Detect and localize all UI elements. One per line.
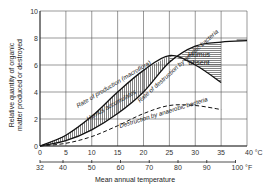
x-tick-label-c: 35 xyxy=(217,149,225,156)
y-tick-label: 8 xyxy=(34,35,38,42)
x-tick-label-c: 40 °C xyxy=(245,149,263,156)
chart: 02468100510152025303540 °C32405060708090… xyxy=(0,0,270,186)
y-tick-label: 2 xyxy=(34,116,38,123)
x-tick-label-f: 100 °F xyxy=(232,164,253,171)
x-tick-label-f: 40 xyxy=(59,164,67,171)
x-tick-label-f: 90 xyxy=(203,164,211,171)
x-tick-label-c: 5 xyxy=(64,149,68,156)
y-axis-title-1: Relative quantity of organic xyxy=(8,42,16,127)
y-tick-label: 10 xyxy=(30,8,38,15)
y-tick-label: 6 xyxy=(34,62,38,69)
label-humus-absent-2: absent xyxy=(188,59,209,66)
x-tick-label-f: 70 xyxy=(145,164,153,171)
x-tick-label-c: 30 xyxy=(191,149,199,156)
x-tick-label-c: 10 xyxy=(88,149,96,156)
x-tick-label-f: 32 xyxy=(36,164,44,171)
x-tick-label-f: 80 xyxy=(174,164,182,171)
y-axis-title-2: matter produced or destroyed xyxy=(16,39,24,131)
x-tick-label-c: 25 xyxy=(165,149,173,156)
y-tick-label: 4 xyxy=(34,89,38,96)
label-humus-absent-1: Humus xyxy=(188,51,211,58)
x-axis-title: Mean annual temperature xyxy=(95,176,175,184)
humus-accumulates-region xyxy=(40,56,169,146)
x-tick-label-c: 0 xyxy=(38,149,42,156)
x-tick-label-f: 60 xyxy=(117,164,125,171)
x-tick-label-c: 20 xyxy=(140,149,148,156)
x-tick-label-c: 15 xyxy=(114,149,122,156)
x-tick-label-f: 50 xyxy=(88,164,96,171)
